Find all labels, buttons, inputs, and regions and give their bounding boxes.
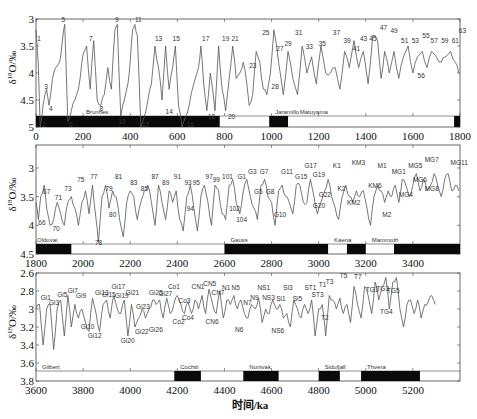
x-tick-label: 4800 [308,384,331,396]
peak-label: 51 [401,37,409,44]
peak-label: 71 [55,194,63,201]
y-tick-label: 4 [29,67,35,79]
peak-label: ST3 [312,291,324,298]
x-tick-label: 2000 [72,257,95,269]
x-tick-label: 1600 [402,130,425,142]
polarity-normal-chron [174,371,201,381]
peak-label: N6 [235,326,244,333]
peak-label: 56 [418,72,426,79]
x-axis-label: 时间/ka [232,398,269,411]
peak-label: N5 [232,284,241,291]
peak-label: G17 [305,162,318,169]
peak-label: 77 [90,173,98,180]
peak-label: CN5 [203,280,216,287]
y-tick-label: 2.6 [20,267,34,279]
y-tick-label: 3.6 [20,357,34,369]
peak-label: G22 [319,191,332,198]
peak-label: CN6 [206,318,219,325]
peak-label: Gi23 [136,303,150,310]
x-tick-label: 1800 [449,130,472,142]
peak-label: T7 [354,273,362,280]
peak-label: Gi22 [135,328,149,335]
y-axis-label: δ18O/‰ [6,177,18,211]
d18o-series-line [36,174,459,243]
peak-label: 63 [459,27,467,34]
peak-label: KM2 [347,199,361,206]
peak-label: NS3 [262,294,275,301]
x-tick-label: 4400 [213,384,236,396]
peak-label: KM6 [368,182,382,189]
peak-label: 10 [118,118,126,125]
peak-label: G10 [274,211,287,218]
peak-label: 27 [276,45,284,52]
chron-label: Jaramillo [275,109,300,115]
peak-label: Gi12 [88,332,102,339]
peak-label: 83 [130,179,138,186]
peak-label: 55 [422,32,430,39]
peak-label: 67 [43,188,51,195]
x-tick-label: 800 [216,130,233,142]
peak-label: 61 [452,37,460,44]
peak-label: 2 [43,121,47,128]
polarity-normal-chron [347,244,366,254]
peak-label: Si3 [283,284,293,291]
peak-label: T5 [340,272,348,279]
peak-label: MG8 [425,185,439,192]
peak-label: 101 [222,173,233,180]
peak-label: G1 [237,173,246,180]
peak-label: NS6 [272,327,285,334]
peak-label: 104 [236,216,247,223]
chron-label: Olduvai [37,237,57,243]
peak-label: 35 [319,40,327,47]
x-tick-label: 3200 [355,257,378,269]
peak-label: 20 [228,113,236,120]
peak-label: MG11 [451,159,469,166]
peak-label: Co4 [182,314,194,321]
x-tick-label: 2400 [166,257,189,269]
peak-label: 99 [213,176,221,183]
peak-label: K1 [333,162,341,169]
peak-label: 49 [391,27,399,34]
y-tick-label: 3.8 [20,375,34,387]
peak-label: Si1 [276,295,286,302]
polarity-normal-chron [319,371,340,381]
peak-label: Gi3 [49,299,60,306]
peak-label: ST1 [305,284,317,291]
y-axis-label: δ18O/‰ [6,305,18,339]
x-tick-label: 1000 [261,130,284,142]
peak-label: G20 [313,202,326,209]
x-tick-label: 0 [33,130,39,142]
peak-label: 7 [89,35,93,42]
peak-label: Gi20 [121,337,135,344]
peak-label: 66 [38,219,46,226]
peak-label: Gi21 [126,289,140,296]
peak-label: 80 [109,211,117,218]
peak-label: 81 [115,173,123,180]
y-tick-label: 3.4 [20,339,34,351]
peak-label: 23 [249,62,257,69]
peak-label: G7 [260,168,269,175]
x-tick-label: 5200 [402,384,425,396]
x-tick-label: 3000 [308,257,331,269]
peak-label: MG1 [392,168,406,175]
peak-label: 70 [52,225,60,232]
peak-label: M2 [382,211,391,218]
peak-label: 21 [232,35,240,42]
y-tick-label: 4.5 [20,94,34,106]
peak-label: 15 [173,35,181,42]
chron-label: Gilbert [42,364,60,370]
peak-label: TG4 [380,308,393,315]
peak-label: 57 [431,37,439,44]
x-tick-label: 200 [75,130,92,142]
y-tick-label: 3 [29,13,35,25]
y-tick-label: 3 [29,162,35,174]
chron-label: Nunivak [249,364,272,370]
x-tick-label: 600 [169,130,186,142]
peak-label: M1 [378,162,387,169]
peak-label: G5 [254,188,263,195]
peak-label: 95 [193,179,201,186]
x-tick-label: 2600 [213,257,236,269]
peak-label: G19 [313,171,326,178]
y-tick-label: 2.8 [20,285,34,297]
chron-label: Thvera [367,364,386,370]
